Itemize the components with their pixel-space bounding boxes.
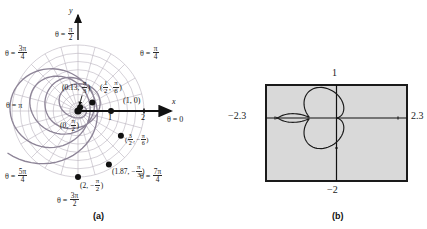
point-label-1-0: (1, 0): [123, 97, 140, 105]
radial-tick-1: 1: [108, 114, 112, 122]
fraction-5pi-4: 5π 4: [18, 168, 27, 184]
theta-prefix: θ =: [57, 196, 67, 205]
theta-prefix: θ =: [5, 49, 15, 58]
window-label-xmax: 2.3: [411, 111, 424, 121]
window-label-ymin: −2: [327, 185, 338, 195]
theta-prefix: θ =: [6, 101, 16, 110]
point-label-2-negpi2: (2, − π 2 ): [80, 178, 103, 193]
leader-arrow-013: [79, 96, 82, 106]
fraction-pi-3-neg: π 3: [136, 164, 141, 179]
fraction-one-half: 1 2: [103, 80, 108, 95]
point-marker-3half-npi6: [118, 133, 124, 139]
point-label-text: (1.87, −: [112, 167, 136, 176]
point-marker-0-pi2: [74, 107, 81, 114]
panel-b-calculator-window: 1 −2 −2.3 2.3 (b): [213, 0, 427, 229]
frac-den: 2: [128, 139, 133, 146]
fraction-pi-6: π 6: [113, 80, 118, 95]
x-axis: [78, 109, 171, 114]
point-label-close: ): [88, 83, 91, 92]
frac-num: π: [113, 80, 118, 87]
radial-tick-2: 2: [141, 114, 145, 122]
point-label-close: ): [76, 121, 79, 130]
theta-label-3pi-4: θ = 3π 4: [5, 45, 28, 61]
theta-value: 0: [179, 115, 183, 124]
point-label-comma: ,: [109, 83, 113, 92]
window-label-ymax: 1: [332, 68, 337, 78]
theta-prefix: θ =: [5, 172, 15, 181]
frac-num: π: [136, 164, 141, 171]
window-label-xmin: −2.3: [228, 111, 246, 121]
point-label-close: ): [119, 83, 122, 92]
frac-den: 2: [95, 185, 100, 193]
fraction-pi-2: π 2: [68, 26, 74, 42]
point-marker-half-pi6: [89, 100, 95, 106]
theta-label-pi-4: θ = π 4: [140, 45, 159, 61]
point-label-text: (0.13,: [62, 83, 81, 92]
theta-prefix: θ =: [140, 49, 150, 58]
point-label-text: (0,: [60, 121, 70, 130]
theta-label-3pi-2: θ = 3π 2: [57, 192, 80, 208]
fraction-pi-4: π 4: [153, 45, 159, 61]
y-axis-label: y: [69, 7, 73, 15]
theta-prefix: θ =: [55, 30, 65, 39]
fraction-pi-3: π 3: [82, 80, 87, 95]
figure-container: x y 1 2 θ = π 2 θ = 3π 4 θ = π 4: [0, 0, 427, 229]
theta-prefix: θ =: [167, 115, 177, 124]
point-label-013-pi3: (0.13, π 3 ): [62, 80, 90, 95]
theta-label-pi-2: θ = π 2: [55, 26, 74, 42]
fraction-three-halves: 3 2: [128, 133, 133, 146]
point-label-187-negpi3: (1.87, − π 3 ): [112, 164, 145, 179]
point-label-close: ): [146, 136, 148, 143]
panel-a-caption: (a): [93, 211, 104, 221]
point-label-close: ): [101, 181, 104, 190]
fraction-7pi-4: 7π 4: [153, 168, 162, 184]
point-label-half-pi6: ( 1 2 , π 6 ): [100, 80, 122, 95]
fraction-3pi-2: 3π 2: [70, 192, 79, 208]
fraction-pi-2-neg: π 2: [95, 178, 100, 193]
theta-label-0: θ = 0: [167, 116, 183, 124]
x-axis-label: x: [172, 98, 176, 106]
theta-value: π: [18, 101, 22, 110]
panel-a-polar-graph: x y 1 2 θ = π 2 θ = 3π 4 θ = π 4: [0, 0, 213, 229]
frac-den: 3: [82, 87, 87, 95]
frac-den: 2: [103, 87, 108, 95]
point-label-text: (2, −: [80, 181, 94, 190]
frac-den: 6: [113, 87, 118, 95]
fraction-3pi-4: 3π 4: [18, 45, 27, 61]
point-marker-187-npi3: [106, 161, 112, 167]
frac-num: 1: [103, 80, 108, 87]
theta-label-pi: θ = π: [6, 102, 22, 110]
frac-den: 3: [136, 171, 141, 179]
panel-b-caption: (b): [332, 211, 344, 221]
frac-num: π: [82, 80, 87, 87]
point-label-comma: , −: [133, 136, 140, 143]
theta-label-5pi-4: θ = 5π 4: [5, 168, 28, 184]
point-label-close: ): [142, 167, 145, 176]
point-label-3half-negpi6: ( 3 2 , − π 6 ): [125, 133, 149, 146]
point-label-0-pi2: (0, π 2 ): [60, 118, 79, 133]
frac-num: π: [95, 178, 100, 185]
